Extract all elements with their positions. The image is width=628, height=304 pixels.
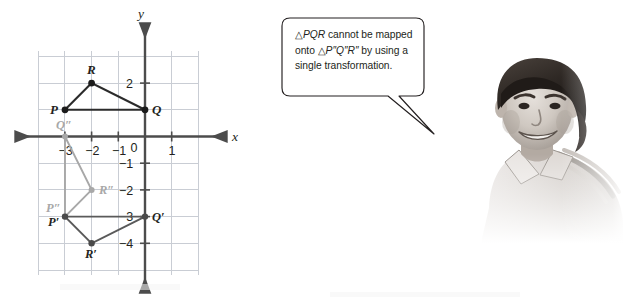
triangle-name-pqr: PQR	[303, 29, 325, 40]
speech-bubble-text: △PQR cannot be mapped onto △P″Q″R″ by us…	[295, 27, 415, 74]
vertex-label-r: R	[86, 62, 96, 77]
vertex-p-point	[62, 106, 69, 113]
vertex-label-q2: Q″	[56, 118, 72, 132]
x-tick-label: −1	[112, 144, 126, 158]
vertex-r-point	[88, 80, 95, 87]
triangle-symbol-icon: △	[295, 29, 303, 40]
speech-bubble-line-3: single transformation.	[295, 58, 415, 74]
triangle-p1q1r1: P′ Q′ R′	[48, 210, 165, 261]
photo-right-fade	[561, 58, 627, 243]
vertex-label-q1: Q′	[152, 210, 165, 224]
y-tick-label: −2	[119, 184, 133, 198]
coordinate-plane: x y −3 −2 −1 0 1 2 −1 −2 −3 −4	[0, 0, 270, 304]
vertex-r2-point	[89, 187, 95, 193]
y-tick-label: 2	[126, 77, 133, 91]
triangle-name-p2q2r2: P″Q″R″	[326, 45, 359, 56]
vertex-label-p: P	[50, 102, 59, 117]
line2-head: onto	[295, 45, 318, 56]
vertex-r1-point	[88, 240, 94, 246]
vertex-label-r1: R′	[84, 247, 97, 261]
student-photo-image	[441, 58, 627, 243]
vertex-q1-point	[142, 213, 148, 219]
y-tick-label: −1	[119, 157, 133, 171]
coordinate-plane-svg: x y −3 −2 −1 0 1 2 −1 −2 −3 −4	[0, 0, 270, 304]
vertex-label-q: Q	[152, 102, 162, 117]
speech-bubble-line-2: onto △P″Q″R″ by using a	[295, 43, 415, 59]
scan-artifact	[60, 284, 180, 290]
triangle-p2q2r2: Q″ P″ R″	[46, 118, 114, 220]
x-tick-label: 1	[169, 144, 176, 158]
line1-tail: cannot be mapped	[325, 29, 412, 40]
figure-stage: x y −3 −2 −1 0 1 2 −1 −2 −3 −4	[0, 0, 628, 304]
vertex-p1-point	[62, 213, 68, 219]
y-tick-label: −4	[119, 237, 133, 251]
triangle-symbol-icon: △	[318, 45, 326, 56]
photo-eye-right	[550, 103, 561, 109]
scan-artifact	[330, 292, 520, 297]
vertex-label-p2: P″	[46, 201, 61, 215]
vertex-q2-point	[62, 134, 68, 140]
photo-cheek-shadow	[502, 110, 520, 134]
speech-bubble-line-1: △PQR cannot be mapped	[295, 27, 415, 43]
speech-bubble: △PQR cannot be mapped onto △P″Q″R″ by us…	[282, 16, 424, 96]
triangle-pqr-outline	[65, 83, 145, 110]
x-axis-label: x	[231, 129, 238, 144]
vertex-q-point	[142, 106, 149, 113]
x-tick-label: −2	[85, 144, 99, 158]
x-tick-label: 0	[131, 141, 138, 155]
y-axis-label: y	[136, 6, 144, 21]
vertex-label-r2: R″	[98, 183, 114, 197]
photo-eye-left	[519, 103, 530, 109]
x-tick-labels: −3 −2 −1 0 1	[59, 141, 176, 158]
vertex-label-p1: P′	[48, 215, 59, 229]
line2-tail: by using a	[359, 45, 408, 56]
student-photo	[441, 58, 627, 243]
